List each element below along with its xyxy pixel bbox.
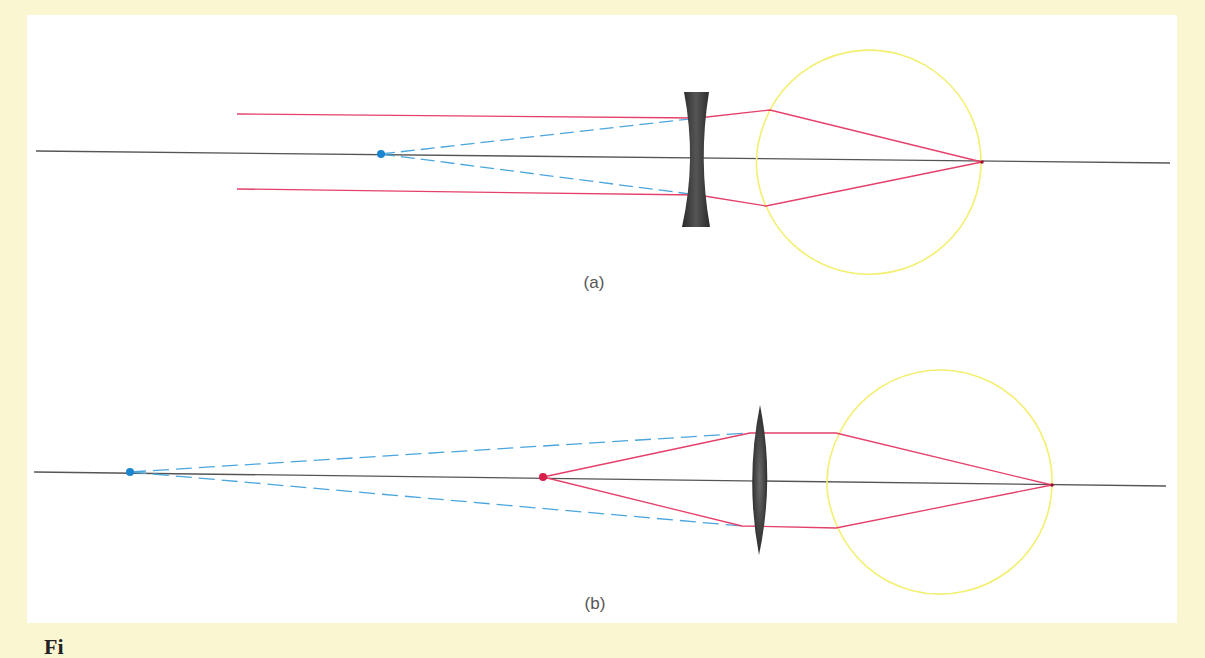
far-point-dot <box>377 150 385 158</box>
near-point-dot <box>126 468 134 476</box>
optical-axis-a <box>36 151 1170 163</box>
figure-caption: Fi <box>44 636 64 658</box>
real-ray-b-bottom <box>543 477 1052 528</box>
retina-focus-b <box>1050 483 1054 487</box>
panel-a-label: (a) <box>584 273 605 293</box>
convex-lens <box>752 405 767 555</box>
virtual-ray-a-bottom <box>381 154 698 195</box>
concave-lens <box>682 92 710 227</box>
object-point-dot <box>539 473 547 481</box>
panel-b <box>34 370 1166 594</box>
eye-outline-a <box>756 50 981 274</box>
retina-focus-a <box>980 160 984 164</box>
virtual-ray-a-top <box>381 118 698 154</box>
panel-b-label: (b) <box>585 594 606 614</box>
panel-a <box>36 50 1170 274</box>
